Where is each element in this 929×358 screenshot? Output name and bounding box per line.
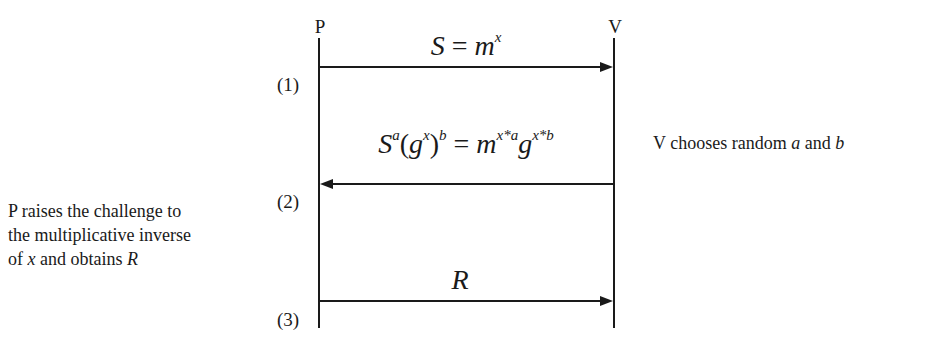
step-2-label: (2)	[277, 191, 299, 213]
message-1-label: S = mx	[431, 30, 502, 62]
message-3-label: R	[451, 264, 468, 296]
message-2-label: Sa(gx)b = mx*agx*b	[378, 128, 554, 160]
prover-note: P raises the challenge to the multiplica…	[8, 199, 191, 271]
step-1-label: (1)	[277, 74, 299, 96]
arrowhead-step-2-icon	[320, 179, 333, 189]
arrowhead-step-3-icon	[600, 296, 613, 306]
step-3-label: (3)	[277, 309, 299, 331]
arrowhead-step-1-icon	[600, 62, 613, 72]
verifier-note: V chooses random a and b	[653, 131, 844, 155]
